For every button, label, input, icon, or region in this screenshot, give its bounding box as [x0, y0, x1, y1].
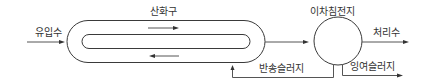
waste-sludge-flow: 잉여슬러지 — [343, 61, 404, 78]
influent-arrow-head — [59, 40, 65, 44]
return-sludge-flow: 반송슬러지 — [231, 63, 334, 78]
secondary-clarifier: 이차침전지 — [310, 6, 362, 65]
oxidation-ditch: 산화구 — [67, 6, 265, 63]
clarifier-circle — [314, 17, 362, 65]
effluent-arrow-head — [403, 40, 409, 44]
influent-label: 유입수 — [35, 26, 62, 38]
ditch-to-clarifier-flow — [265, 40, 309, 44]
return-sludge-arrow-head — [231, 65, 235, 70]
waste-sludge-label: 잉여슬러지 — [350, 61, 395, 72]
return-sludge-label: 반송슬러지 — [259, 63, 304, 74]
flow-arrow-left-head — [149, 54, 155, 58]
process-diagram: 산화구 유입수 이차침전지 처리수 반송슬러지 잉여슬러지 — [0, 0, 432, 81]
oxidation-ditch-label: 산화구 — [150, 6, 177, 17]
flow-arrow-right-head — [173, 26, 179, 30]
effluent-flow: 처리수 — [362, 27, 409, 44]
transfer-arrow-head — [303, 40, 309, 44]
clarifier-label: 이차침전지 — [310, 6, 355, 17]
effluent-label: 처리수 — [373, 27, 400, 38]
waste-sludge-arrow-head — [397, 74, 403, 78]
influent-flow: 유입수 — [27, 26, 65, 44]
ditch-inner-wall — [82, 35, 250, 49]
